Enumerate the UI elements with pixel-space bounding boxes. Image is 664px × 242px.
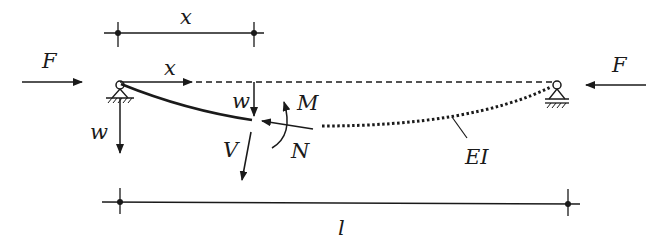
deflection-left-label: w	[90, 120, 108, 144]
deflection-left-arrow: w	[90, 98, 120, 153]
dimension-length-label: l	[338, 216, 345, 240]
deflection-mid-arrow: w	[232, 82, 254, 116]
moment-label: M	[296, 91, 319, 115]
shear-force-label: V	[223, 138, 240, 162]
dimension-x: x	[104, 5, 264, 47]
normal-force-label: N	[290, 139, 310, 163]
force-left-label: F	[41, 49, 58, 73]
normal-force-arrow: N	[262, 121, 313, 163]
axis-x-arrow: x	[120, 56, 192, 82]
beam-diagram: x F x w w N M V	[0, 0, 664, 242]
shear-force-arrow: V	[223, 132, 251, 180]
dimension-length: l	[102, 188, 580, 240]
axis-x-label: x	[164, 56, 176, 80]
dimension-x-label: x	[180, 5, 192, 29]
force-right-label: F	[611, 53, 628, 77]
force-right: F	[586, 53, 646, 85]
deflected-beam-dotted	[322, 87, 551, 126]
force-left: F	[22, 49, 82, 82]
right-pin-support-icon	[545, 81, 569, 108]
stiffness-annotation: EI	[452, 117, 489, 169]
stiffness-label: EI	[464, 145, 489, 169]
deflection-mid-label: w	[232, 89, 250, 113]
